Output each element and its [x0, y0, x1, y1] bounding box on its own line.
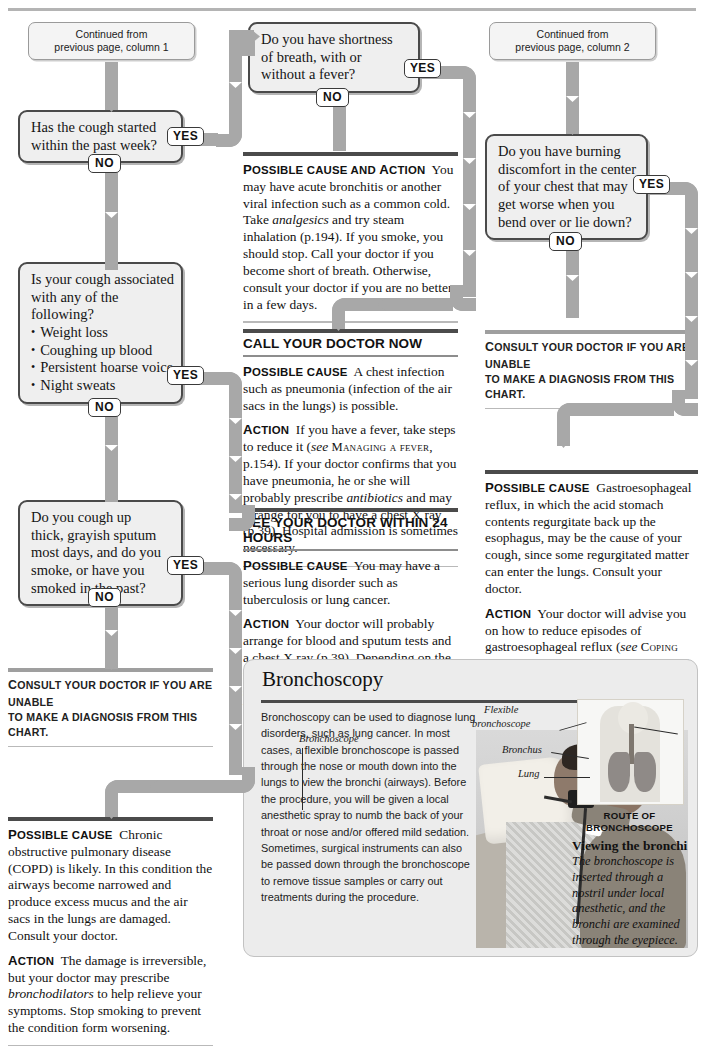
viewing-bronchi-body: The bronchoscope is inserted through a n…: [572, 854, 692, 949]
continued-line-2: previous page, column 2: [496, 41, 649, 54]
consult-text: CONSULT YOUR DOCTOR IF YOU ARE UNABLE TO…: [485, 334, 698, 408]
consult-strip-column-3: CONSULT YOUR DOCTOR IF YOU ARE UNABLE TO…: [485, 330, 698, 409]
lung-left: [608, 752, 630, 792]
question-line: Do you cough up: [31, 509, 171, 527]
connector-corner-q2-yes-bottom: [450, 285, 476, 311]
label-bronchus: Bronchus: [502, 744, 542, 755]
q4-yes-pill[interactable]: YES: [167, 556, 204, 575]
connector-q5-yes-v: [685, 195, 698, 399]
panel-banner: CALL YOUR DOCTOR NOW: [243, 333, 458, 355]
question-line: discomfort in the center: [498, 161, 636, 179]
symptom-item: Night sweats: [31, 377, 171, 395]
consult-line-2: TO MAKE A DIAGNOSIS FROM THIS CHART.: [8, 710, 213, 740]
connector-q2-yes-v: [463, 79, 476, 297]
q2-yes-pill[interactable]: YES: [404, 59, 441, 78]
q3-no-pill[interactable]: NO: [88, 398, 121, 417]
connector-q3-no: [105, 407, 118, 502]
viewing-bronchi-heading: Viewing the bronchi: [572, 838, 690, 854]
label-lung: Lung: [518, 768, 540, 779]
top-rule: [8, 8, 696, 11]
label-flexible-bronchoscope-line2: bronchoscope: [472, 718, 531, 729]
question-burning-discomfort-chest[interactable]: Do you have burning discomfort in the ce…: [485, 134, 648, 240]
symptom-item: Coughing up blood: [31, 342, 171, 360]
leader-lung: [544, 777, 590, 778]
question-line: get worse when you: [498, 196, 636, 214]
continued-line-1: Continued from: [496, 28, 649, 41]
connector-corner-q5-yes-bottom: [672, 390, 698, 416]
route-caption: ROUTE OF BRONCHOSCOPE: [577, 810, 682, 834]
question-shortness-of-breath[interactable]: Do you have shortness of breath, with or…: [248, 22, 420, 93]
route-caption-line-1: ROUTE OF: [577, 810, 682, 822]
consult-text: CONSULT YOUR DOCTOR IF YOU ARE UNABLE TO…: [8, 672, 213, 746]
panel-banner: SEE YOUR DOCTOR WITHIN 24 HOURS: [243, 512, 458, 549]
question-line: smoke, or have you: [31, 562, 171, 580]
consult-rule-bottom: [8, 746, 213, 748]
consult-line-2: TO MAKE A DIAGNOSIS FROM THIS CHART.: [485, 372, 698, 402]
continued-line-1: Continued from: [35, 28, 188, 41]
q1-yes-pill[interactable]: YES: [167, 127, 204, 146]
consult-line-1: CONSULT YOUR DOCTOR IF YOU ARE UNABLE: [8, 677, 213, 710]
leader-bronchoscope: [302, 748, 303, 810]
question-line: thick, grayish sputum: [31, 527, 171, 545]
q1-no-pill[interactable]: NO: [88, 154, 121, 173]
question-line: following?: [31, 306, 171, 324]
bronchoscopy-feature-box: Bronchoscopy Bronchoscopy can be used to…: [243, 659, 698, 957]
continued-from-column-2: Continued from previous page, column 2: [489, 22, 656, 60]
question-line: Do you have shortness: [261, 31, 408, 49]
connector-q4-yes-back-left: [118, 780, 231, 793]
connector-continued1-to-q1: [105, 62, 118, 110]
consult-line-1: CONSULT YOUR DOCTOR IF YOU ARE UNABLE: [485, 339, 698, 372]
bronchoscopy-title: Bronchoscopy: [262, 667, 383, 692]
panel-copd: POSSIBLE CAUSE Chronic obstructive pulmo…: [8, 817, 213, 1046]
symptom-item: Weight loss: [31, 324, 171, 342]
continued-line-2: previous page, column 1: [35, 41, 188, 54]
connector-q3-yes-v: [229, 385, 242, 513]
q4-no-pill[interactable]: NO: [88, 588, 121, 607]
panel-body: POSSIBLE CAUSE Chronic obstructive pulmo…: [8, 821, 213, 1037]
bronchoscopy-body-text: Bronchoscopy can be used to diagnose lun…: [261, 709, 476, 905]
question-line: Has the cough started: [31, 119, 171, 137]
symptom-list: Weight loss Coughing up blood Persistent…: [31, 324, 171, 395]
continued-from-column-1: Continued from previous page, column 1: [28, 22, 195, 60]
connector-q2-yes-back-left: [345, 298, 453, 311]
question-line: of your chest that may: [498, 178, 636, 196]
q2-no-pill[interactable]: NO: [316, 88, 349, 107]
connector-q3-yes-into-panel: [242, 518, 248, 531]
route-caption-line-2: BRONCHOSCOPE: [577, 822, 682, 834]
connector-corner-rail-bottom: [229, 767, 255, 793]
question-line: with any of the: [31, 289, 171, 307]
label-flexible-bronchoscope-line1: Flexible: [484, 704, 518, 715]
q3-yes-pill[interactable]: YES: [167, 366, 204, 385]
question-line: within the past week?: [31, 137, 171, 155]
q5-yes-pill[interactable]: YES: [633, 175, 670, 194]
question-line: without a fever?: [261, 66, 408, 84]
route-of-bronchoscope-diagram: [577, 699, 684, 805]
lung-right: [634, 752, 656, 792]
consult-strip-column-1: CONSULT YOUR DOCTOR IF YOU ARE UNABLE TO…: [8, 668, 213, 747]
connector-q5-yes-back-left: [570, 403, 674, 416]
panel-body: POSSIBLE CAUSE AND ACTION You may have a…: [243, 156, 458, 313]
question-line: Do you have burning: [498, 143, 636, 161]
question-line: most days, and do you: [31, 544, 171, 562]
q5-no-pill[interactable]: NO: [549, 232, 582, 251]
label-bronchoscope: Bronchoscope: [299, 733, 359, 744]
connector-q4-yes-rail: [229, 575, 242, 775]
question-cough-associated-symptoms[interactable]: Is your cough associated with any of the…: [18, 262, 183, 404]
question-line: Is your cough associated: [31, 271, 171, 289]
question-line: of breath, with or: [261, 49, 408, 67]
symptom-item: Persistent hoarse voice: [31, 359, 171, 377]
question-line: bend over or lie down?: [498, 214, 636, 232]
